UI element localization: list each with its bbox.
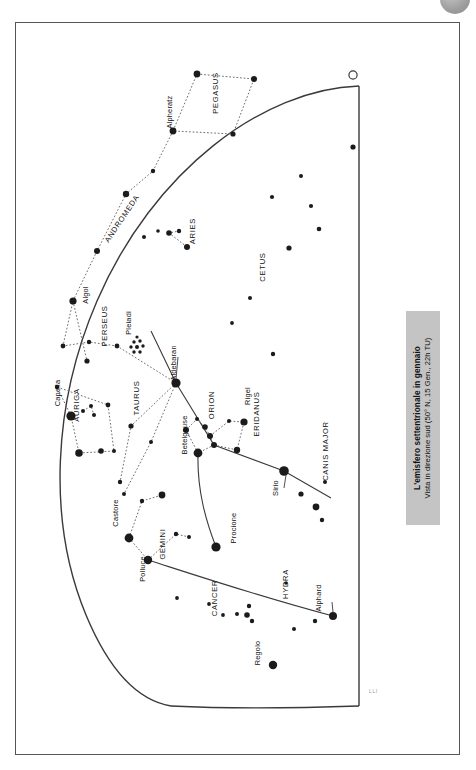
constellation-label: HYDRA bbox=[281, 569, 290, 599]
star-point bbox=[87, 340, 91, 344]
constellation-lines bbox=[57, 74, 254, 560]
star-point bbox=[247, 604, 251, 608]
star-point bbox=[248, 296, 252, 300]
figure-page: PEGASUSANDROMEDAARIESCETUSPERSEUSAURIGAT… bbox=[0, 0, 476, 770]
star-point bbox=[235, 612, 239, 616]
star-point bbox=[118, 480, 122, 484]
star-point bbox=[123, 191, 129, 197]
star-point bbox=[128, 423, 133, 428]
star-label: Polluce bbox=[138, 556, 147, 582]
star-point bbox=[156, 229, 160, 233]
star-point bbox=[320, 518, 324, 522]
constellation-label: CETUS bbox=[258, 252, 267, 281]
star-point bbox=[115, 344, 120, 349]
figure-caption-inner: L'emisfero settentrionale in gennaio Vis… bbox=[412, 313, 433, 523]
star-label: Castore bbox=[111, 499, 120, 526]
star-point bbox=[350, 144, 355, 149]
star-point bbox=[125, 534, 134, 543]
figure-caption-subtitle: Vista in direzione sud (50° N, 15 Gen., … bbox=[423, 313, 433, 523]
star-point bbox=[298, 491, 303, 496]
constellation-label: ANDROMEDA bbox=[103, 193, 142, 244]
star-label: Capella bbox=[53, 379, 62, 406]
constellation-label: ARIES bbox=[188, 218, 197, 244]
pleiades-cluster-icon bbox=[129, 335, 144, 353]
star-point bbox=[251, 76, 257, 82]
star-point bbox=[313, 504, 320, 511]
constellation-label: CANCER bbox=[210, 580, 219, 616]
star-point bbox=[142, 235, 146, 239]
star-label: Alpheratz bbox=[165, 95, 174, 128]
ecliptic-line bbox=[151, 331, 331, 498]
star-point bbox=[149, 440, 153, 444]
star-point bbox=[313, 619, 317, 623]
figure-corner-mark: LLI bbox=[369, 688, 378, 694]
figure-caption-box: L'emisfero settentrionale in gennaio Vis… bbox=[406, 311, 440, 525]
constellation-label: ORION bbox=[207, 391, 216, 419]
star-point bbox=[227, 419, 231, 423]
star-point bbox=[140, 499, 144, 503]
constellation-label: TAURUS bbox=[132, 381, 141, 416]
star-point bbox=[250, 619, 254, 623]
star-point bbox=[230, 131, 235, 136]
star-point bbox=[75, 449, 83, 457]
star-point bbox=[92, 413, 96, 417]
star-point bbox=[94, 248, 100, 254]
star-point bbox=[174, 532, 178, 536]
star-point bbox=[194, 71, 201, 78]
star-point bbox=[279, 466, 289, 476]
star-label: Algol bbox=[81, 286, 90, 304]
star-point bbox=[84, 358, 89, 363]
star-point bbox=[194, 449, 203, 458]
star-point bbox=[81, 409, 85, 413]
star-label: Alphard bbox=[314, 585, 323, 612]
star-point bbox=[61, 344, 66, 349]
constellation-label: GEMINI bbox=[158, 528, 167, 559]
star-layer bbox=[55, 71, 356, 670]
figure-caption-title: L'emisfero settentrionale in gennaio bbox=[412, 313, 423, 523]
star-point bbox=[234, 447, 240, 453]
star-point bbox=[106, 403, 111, 408]
horizon-arc-lower bbox=[171, 706, 359, 708]
star-point bbox=[69, 297, 76, 304]
star-label: Regolo bbox=[253, 641, 262, 666]
constellation-label-layer: PEGASUSANDROMEDAARIESCETUSPERSEUSAURIGAT… bbox=[72, 72, 330, 616]
star-point bbox=[270, 195, 274, 199]
star-label: Betelgeuse bbox=[180, 416, 189, 455]
star-point bbox=[187, 535, 191, 539]
star-point bbox=[244, 612, 250, 618]
star-point bbox=[211, 442, 217, 448]
celestial-equator-line bbox=[148, 560, 333, 616]
star-point bbox=[230, 321, 234, 325]
star-point bbox=[202, 424, 208, 430]
star-point bbox=[211, 542, 220, 551]
constellation-label: ERIDANUS bbox=[252, 392, 261, 437]
star-point bbox=[112, 449, 116, 453]
star-point bbox=[309, 204, 313, 208]
star-point bbox=[98, 448, 104, 454]
star-point bbox=[269, 661, 277, 669]
star-point bbox=[240, 418, 247, 425]
zenith-marker-icon bbox=[349, 71, 357, 79]
star-point bbox=[317, 227, 322, 232]
star-label: Procione bbox=[229, 513, 238, 544]
star-point bbox=[221, 613, 225, 617]
star-point bbox=[271, 352, 275, 356]
star-point bbox=[122, 492, 126, 496]
star-point bbox=[286, 245, 291, 250]
star-point bbox=[329, 612, 337, 620]
constellation-label: PEGASUS bbox=[211, 72, 220, 114]
star-point bbox=[299, 174, 303, 178]
star-chart-canvas: PEGASUSANDROMEDAARIESCETUSPERSEUSAURIGAT… bbox=[16, 23, 459, 754]
constellation-label: PERSEUS bbox=[100, 305, 109, 346]
star-point bbox=[159, 492, 166, 499]
star-point bbox=[89, 404, 93, 408]
star-point bbox=[195, 417, 199, 421]
star-point bbox=[292, 627, 296, 631]
star-label: Rigel bbox=[243, 387, 252, 405]
star-point bbox=[175, 596, 179, 600]
figure-frame: PEGASUSANDROMEDAARIESCETUSPERSEUSAURIGAT… bbox=[15, 22, 460, 755]
star-point bbox=[207, 433, 213, 439]
star-label: Sirio bbox=[271, 480, 280, 496]
star-point bbox=[166, 230, 172, 236]
auxiliary-curve bbox=[198, 453, 216, 547]
